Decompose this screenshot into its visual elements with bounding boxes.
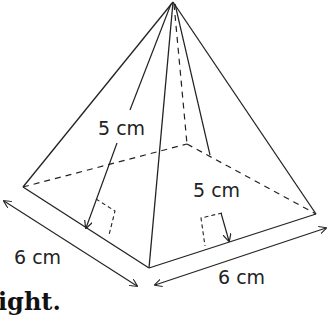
label-base-right: 6 cm — [218, 266, 265, 288]
edge-apex-front — [149, 2, 173, 268]
hidden-edge-apex-back — [174, 4, 187, 144]
label-base-left: 6 cm — [14, 246, 61, 268]
label-slant-left: 5 cm — [98, 117, 145, 139]
slant-right-lower — [221, 213, 229, 241]
right-angle-markers — [96, 199, 222, 246]
right-angle-right — [201, 213, 222, 246]
dimension-arrows — [4, 201, 326, 286]
pyramid-diagram: 5 cm 5 cm 6 cm 6 cm ight. — [0, 0, 330, 315]
slant-right-upper — [175, 4, 210, 155]
edge-apex-left — [23, 2, 173, 187]
edge-front-right — [149, 214, 316, 268]
visible-edges — [23, 2, 316, 268]
slant-left-lower — [86, 143, 117, 228]
right-angle-left — [96, 199, 115, 235]
label-slant-right: 5 cm — [193, 179, 240, 201]
caption-fragment: ight. — [0, 287, 61, 315]
dim-left — [4, 201, 137, 286]
hidden-edge-left-back — [23, 144, 187, 187]
